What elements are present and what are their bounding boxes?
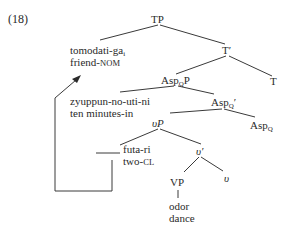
quantifier-gloss: two-CL bbox=[123, 155, 154, 168]
node-t: T bbox=[270, 75, 277, 87]
node-t-bar: T′ bbox=[222, 44, 231, 56]
quantifier-word: futa-ri bbox=[123, 143, 150, 155]
branch-tbar-aspqp bbox=[176, 56, 226, 74]
branch-vbar-v bbox=[201, 157, 223, 171]
branch-vbar-vp bbox=[184, 157, 199, 172]
adjunct-gloss: ten minutes-in bbox=[70, 107, 133, 119]
example-number: (18) bbox=[8, 13, 28, 25]
node-vp-little: υP bbox=[152, 117, 164, 129]
subject-word: tomodati-gai bbox=[70, 44, 125, 56]
branch-tbar-t bbox=[229, 56, 272, 76]
branch-vp-vbar bbox=[160, 129, 201, 144]
node-v: υ bbox=[224, 172, 229, 184]
branch-tp-subject bbox=[100, 25, 158, 40]
verb-gloss: dance bbox=[169, 212, 195, 224]
node-aspq-bar: AspQ′ bbox=[211, 96, 236, 108]
node-aspq: AspQ bbox=[250, 119, 273, 131]
node-vp: VP bbox=[170, 176, 184, 188]
node-v-bar: υ′ bbox=[196, 145, 203, 157]
node-tp: TP bbox=[151, 13, 164, 25]
adjunct-word: zyuppun-no-uti-ni bbox=[70, 95, 150, 107]
node-aspq-p: AspQP bbox=[161, 74, 190, 86]
branch-aspqbar-vp bbox=[170, 109, 222, 113]
branch-tp-tbar bbox=[160, 25, 225, 44]
branch-aspqbar-aspq bbox=[224, 109, 255, 117]
subject-gloss: friend-NOM bbox=[70, 56, 120, 69]
branch-aspqp-adjunct bbox=[120, 86, 174, 92]
tree-branches bbox=[0, 0, 286, 227]
verb-word: odor bbox=[169, 200, 189, 212]
